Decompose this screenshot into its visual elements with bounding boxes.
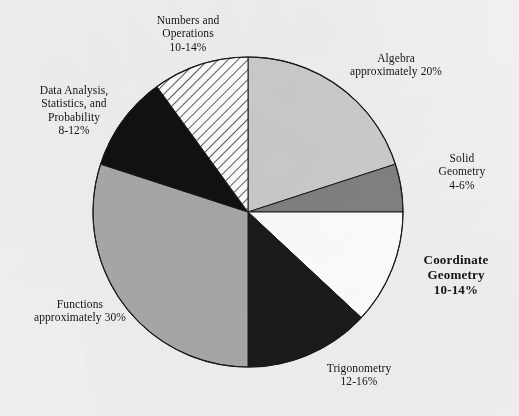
label-line: Geometry <box>400 267 512 282</box>
label-line: Statistics, and <box>6 97 142 110</box>
label-line: 4-6% <box>412 179 512 192</box>
label-line: 10-14% <box>118 41 258 54</box>
slice-label-algebra: Algebra approximately 20% <box>320 52 472 79</box>
label-line: 8-12% <box>6 124 142 137</box>
label-line: Geometry <box>412 165 512 178</box>
label-line: Trigonometry <box>300 362 418 375</box>
pie-chart-figure: Numbers and Operations 10-14% Data Analy… <box>0 0 519 416</box>
slice-label-solid-geometry: Solid Geometry 4-6% <box>412 152 512 192</box>
label-line: 12-16% <box>300 375 418 388</box>
slice-label-data-analysis: Data Analysis, Statistics, and Probabili… <box>6 84 142 137</box>
slice-label-functions: Functions approximately 30% <box>4 298 156 325</box>
slice-label-coordinate-geometry: Coordinate Geometry 10-14% <box>400 252 512 297</box>
label-line: Coordinate <box>400 252 512 267</box>
slice-label-numbers-operations: Numbers and Operations 10-14% <box>118 14 258 54</box>
label-line: Data Analysis, <box>6 84 142 97</box>
slice-label-trigonometry: Trigonometry 12-16% <box>300 362 418 389</box>
label-line: Probability <box>6 111 142 124</box>
label-line: Operations <box>118 27 258 40</box>
label-line: Algebra <box>320 52 472 65</box>
label-line: Solid <box>412 152 512 165</box>
label-line: approximately 30% <box>4 311 156 324</box>
label-line: Numbers and <box>118 14 258 27</box>
label-line: Functions <box>4 298 156 311</box>
label-line: approximately 20% <box>320 65 472 78</box>
label-line: 10-14% <box>400 282 512 297</box>
